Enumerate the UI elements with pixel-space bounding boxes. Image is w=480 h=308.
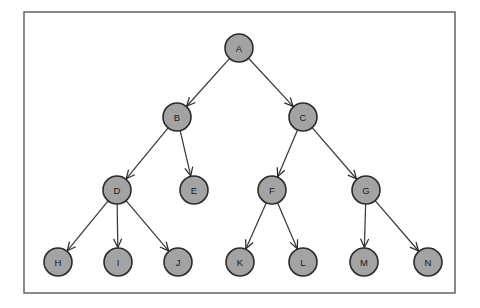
- edge-f-to-k: [246, 203, 266, 249]
- node-circle-k[interactable]: [226, 248, 254, 276]
- node-a[interactable]: A: [225, 34, 253, 62]
- node-n[interactable]: N: [414, 248, 442, 276]
- tree-diagram-svg: ABCDEFGHIJKLMN: [0, 0, 480, 308]
- node-circle-j[interactable]: [164, 248, 192, 276]
- node-circle-g[interactable]: [352, 176, 380, 204]
- edge-b-to-d: [126, 128, 168, 179]
- edge-g-to-n: [375, 201, 418, 251]
- node-circle-n[interactable]: [414, 248, 442, 276]
- node-e[interactable]: E: [180, 176, 208, 204]
- node-c[interactable]: C: [289, 103, 317, 131]
- arrowhead-b-to-e-barb-2: [191, 167, 193, 176]
- node-j[interactable]: J: [164, 248, 192, 276]
- node-l[interactable]: L: [289, 248, 317, 276]
- edge-a-to-b: [187, 58, 230, 106]
- node-g[interactable]: G: [352, 176, 380, 204]
- arrowhead-d-to-i-barb-2: [118, 239, 122, 248]
- edges-group: [67, 58, 418, 251]
- edge-d-to-j: [126, 201, 169, 251]
- node-circle-c[interactable]: [289, 103, 317, 131]
- node-k[interactable]: K: [226, 248, 254, 276]
- edge-c-to-f: [278, 130, 298, 177]
- node-circle-h[interactable]: [44, 248, 72, 276]
- node-circle-i[interactable]: [104, 248, 132, 276]
- node-circle-l[interactable]: [289, 248, 317, 276]
- edge-d-to-h: [67, 201, 108, 251]
- node-d[interactable]: D: [103, 176, 131, 204]
- node-circle-d[interactable]: [103, 176, 131, 204]
- arrowhead-g-to-m-barb-1: [361, 239, 365, 248]
- node-m[interactable]: M: [350, 248, 378, 276]
- edge-a-to-c: [249, 58, 294, 106]
- node-b[interactable]: B: [163, 103, 191, 131]
- node-circle-a[interactable]: [225, 34, 253, 62]
- node-i[interactable]: I: [104, 248, 132, 276]
- node-circle-m[interactable]: [350, 248, 378, 276]
- node-circle-f[interactable]: [258, 176, 286, 204]
- tree-diagram-canvas: ABCDEFGHIJKLMN: [0, 0, 480, 308]
- nodes-group: ABCDEFGHIJKLMN: [44, 34, 442, 276]
- node-f[interactable]: F: [258, 176, 286, 204]
- node-h[interactable]: H: [44, 248, 72, 276]
- node-circle-e[interactable]: [180, 176, 208, 204]
- node-circle-b[interactable]: [163, 103, 191, 131]
- edge-g-to-m: [364, 204, 365, 248]
- edge-f-to-l: [278, 203, 298, 249]
- edge-d-to-i: [117, 204, 118, 248]
- edge-c-to-g: [312, 128, 356, 179]
